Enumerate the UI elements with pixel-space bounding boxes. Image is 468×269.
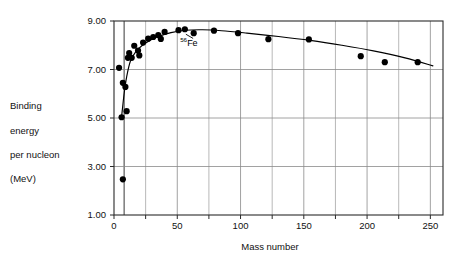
x-tick-label: 150	[296, 220, 312, 231]
grid-layer	[114, 21, 443, 215]
y-axis-tick-labels: 1.003.005.007.009.00	[88, 15, 107, 220]
binding-energy-chart: 56Fe 050100150200250 1.003.005.007.009.0…	[0, 0, 468, 269]
data-point	[140, 39, 146, 45]
x-tick-label: 200	[359, 220, 375, 231]
axis-ticks	[110, 21, 430, 219]
x-tick-label: 100	[233, 220, 249, 231]
data-point	[120, 176, 126, 182]
data-points	[116, 26, 421, 182]
data-point	[136, 52, 142, 58]
y-tick-label: 7.00	[88, 64, 107, 75]
x-tick-label: 250	[422, 220, 438, 231]
data-point	[124, 108, 130, 114]
annotations: 56Fe	[180, 34, 198, 48]
trend-curve	[122, 30, 433, 117]
data-point	[175, 27, 181, 33]
x-axis-title: Mass number	[241, 241, 299, 252]
data-point	[191, 30, 197, 36]
x-tick-label: 50	[172, 220, 183, 231]
trend-curve-path	[122, 30, 433, 117]
y-tick-label: 3.00	[88, 161, 107, 172]
data-point	[122, 84, 128, 90]
data-point	[265, 36, 271, 42]
x-axis-tick-labels: 050100150200250	[111, 220, 438, 231]
data-point	[116, 65, 122, 71]
y-tick-label: 5.00	[88, 112, 107, 123]
data-point	[129, 55, 135, 61]
data-point	[118, 114, 124, 120]
data-point	[415, 59, 421, 65]
y-tick-label: 9.00	[88, 15, 107, 26]
data-point	[358, 53, 364, 59]
data-point	[211, 28, 217, 34]
annotation-label: Fe	[187, 38, 198, 48]
data-point	[182, 26, 188, 32]
data-point	[306, 36, 312, 42]
data-point	[162, 29, 168, 35]
data-point	[131, 43, 137, 49]
data-point	[235, 30, 241, 36]
data-point	[382, 59, 388, 65]
x-tick-label: 0	[111, 220, 116, 231]
data-point	[158, 36, 164, 42]
y-tick-label: 1.00	[88, 209, 107, 220]
